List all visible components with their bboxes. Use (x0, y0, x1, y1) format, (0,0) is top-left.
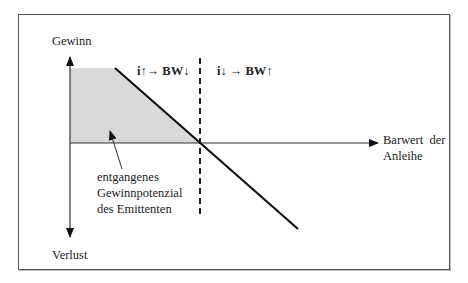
x-axis-label: Barwert der Anleihe (383, 132, 445, 164)
x-axis-label-line-2: Anleihe (383, 148, 445, 164)
y-axis-bottom-label: Verlust (52, 248, 87, 262)
x-axis-label-line-1: Barwert der (383, 132, 445, 148)
shaded-region-label: entgangenes Gewinnpotenzial des Emittent… (97, 169, 182, 217)
y-axis-top-label: Gewinn (52, 34, 92, 48)
annotation-rate-up: i↑→ BW↓ (137, 64, 189, 78)
annotation-rate-down: i↓ → BW↑ (217, 64, 273, 78)
shaded-label-line-3: des Emittenten (97, 201, 182, 217)
shaded-label-line-1: entgangenes (97, 169, 182, 185)
shaded-lost-profit-region (70, 68, 200, 143)
shaded-label-line-2: Gewinnpotenzial (97, 185, 182, 201)
